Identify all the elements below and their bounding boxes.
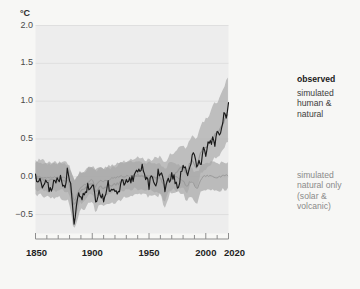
x-axis-tick-1900: 1900 [82,248,103,258]
legend-label-simulated-human-natural: simulated human & natural [297,88,334,119]
x-axis-tick-2020: 2020 [224,248,245,258]
temperature-anomaly-chart: °C 2.01.51.00.50.0−0.5 18501900195020002… [0,0,360,289]
legend-label-observed: observed [297,74,335,84]
x-axis-tick-labels: 18501900195020002020 [0,0,360,289]
x-axis-tick-2000: 2000 [195,248,216,258]
x-axis-tick-1950: 1950 [139,248,160,258]
x-axis-tick-1850: 1850 [26,248,47,258]
legend-label-simulated-natural-only: simulated natural only (solar & volcanic… [297,170,341,212]
